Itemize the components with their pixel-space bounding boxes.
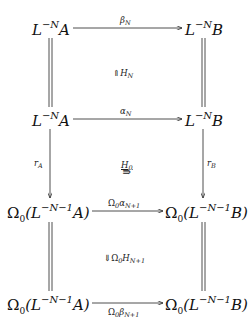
label-r-a: rA bbox=[34, 159, 43, 170]
label-alpha-n: αN bbox=[120, 107, 131, 118]
label-h-0: H0 ⇛ bbox=[121, 161, 133, 177]
node-top-left: L−NA bbox=[32, 20, 70, 38]
label-omega-beta: Ω0βN+1 bbox=[108, 308, 139, 319]
node-lower-left: Ω0(L−N−1A) bbox=[7, 203, 90, 224]
label-h-n: ⇑HN bbox=[113, 69, 133, 80]
node-bottom-right: Ω0(L−N−1B) bbox=[165, 295, 248, 316]
label-r-b: rB bbox=[207, 159, 216, 170]
node-lower-right: Ω0(L−N−1B) bbox=[165, 203, 248, 224]
label-beta-n: βN bbox=[120, 16, 131, 27]
label-omega-alpha: Ω0αN+1 bbox=[108, 199, 140, 210]
triple-arrow-icon: ⇛ bbox=[121, 167, 133, 177]
label-omega-h: ⇓Ω0HN+1 bbox=[104, 254, 145, 265]
node-bottom-left: Ω0(L−N−1A) bbox=[7, 295, 90, 316]
node-mid-right: L−NB bbox=[185, 111, 223, 129]
node-mid-left: L−NA bbox=[32, 111, 70, 129]
node-top-right: L−NB bbox=[185, 20, 223, 38]
